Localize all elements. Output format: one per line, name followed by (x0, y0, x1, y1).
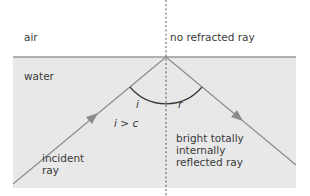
tir-diagram: air no refracted ray water i r i > c inc… (0, 0, 310, 196)
water-label: water (24, 70, 54, 82)
incident-ray-label-line1: incident (42, 152, 84, 164)
incident-ray-label: incident ray (42, 152, 84, 176)
air-label: air (24, 31, 38, 43)
condition-label: i > c (114, 117, 138, 129)
incident-ray-label-line2: ray (42, 164, 84, 176)
reflected-ray-label-line3: reflected ray (176, 156, 244, 168)
reflected-ray-label-line2: internally (176, 144, 244, 156)
reflected-ray-label: bright totally internally reflected ray (176, 132, 244, 168)
angle-i-label: i (136, 98, 139, 110)
angle-r-label: r (178, 98, 182, 110)
reflected-ray-label-line1: bright totally (176, 132, 244, 144)
no-refracted-ray-label: no refracted ray (170, 31, 255, 43)
